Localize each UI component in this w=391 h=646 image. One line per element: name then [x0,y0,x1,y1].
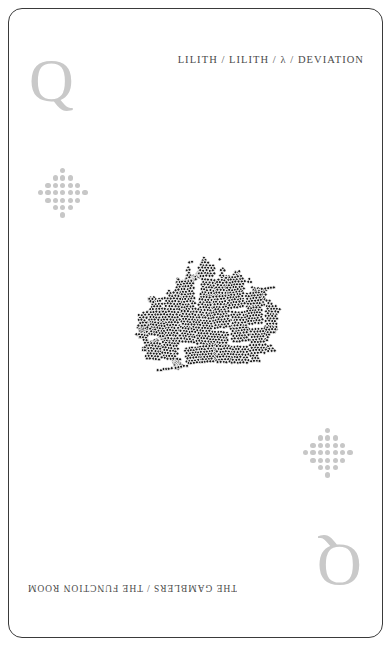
pip-dot [53,183,58,188]
diamond-pip-top-left [37,167,89,219]
pip-dot [68,190,73,195]
central-artwork [129,244,289,419]
pip-dot [325,458,330,463]
pip-dot [68,198,73,203]
pip-dot [53,190,58,195]
pip-dot [333,450,338,455]
pip-dot [325,428,330,433]
pip-dot [45,198,50,203]
pip-dot [53,175,58,180]
pip-dot [45,190,50,195]
pip-dot [60,190,65,195]
pip-dot [68,175,73,180]
pip-dot [68,183,73,188]
footer-wrapper: THE GAMBLERS / THE FUNCTION ROOM [27,581,277,601]
pip-dot [333,435,338,440]
diamond-pip-bottom-right [302,427,354,479]
rank-letter-top-left: Q [29,49,74,111]
pip-dot [325,435,330,440]
pip-dot [53,205,58,210]
pip-dot [333,465,338,470]
pip-dot [75,190,80,195]
pip-dot [60,175,65,180]
packed-circle-aggregate-svg [129,244,289,419]
pip-dot [318,458,323,463]
pip-dot [38,190,43,195]
pip-dot [303,450,308,455]
pip-dot [75,198,80,203]
pip-dot [325,450,330,455]
pip-dot [60,212,65,217]
pip-dot [60,205,65,210]
pip-dot [75,183,80,188]
pip-dot [310,450,315,455]
pip-dot [318,450,323,455]
pip-dot [325,443,330,448]
pip-dot [53,198,58,203]
pip-dot [45,183,50,188]
pip-dot [325,472,330,477]
pip-dot [347,450,352,455]
pip-dot [310,458,315,463]
header-title: LILITH / LILITH / λ / DEVIATION [178,54,364,65]
playing-card: Q LILITH / LILITH / λ / DEVIATION Q THE … [8,8,383,638]
pip-dot [325,465,330,470]
card-stage: Q LILITH / LILITH / λ / DEVIATION Q THE … [0,0,391,646]
pip-dot [318,435,323,440]
pip-dot [340,443,345,448]
footer-title: THE GAMBLERS / THE FUNCTION ROOM [27,581,237,595]
pip-dot [68,205,73,210]
pip-dot [60,168,65,173]
pip-dot [60,183,65,188]
pip-dot [318,443,323,448]
pip-dot [60,198,65,203]
pip-dot [82,190,87,195]
pip-dot [310,443,315,448]
pip-dot [333,443,338,448]
rank-letter-bottom-right: Q [317,535,362,597]
pip-dot [340,458,345,463]
pip-dot [318,465,323,470]
pip-dot [340,450,345,455]
pip-dot [333,458,338,463]
